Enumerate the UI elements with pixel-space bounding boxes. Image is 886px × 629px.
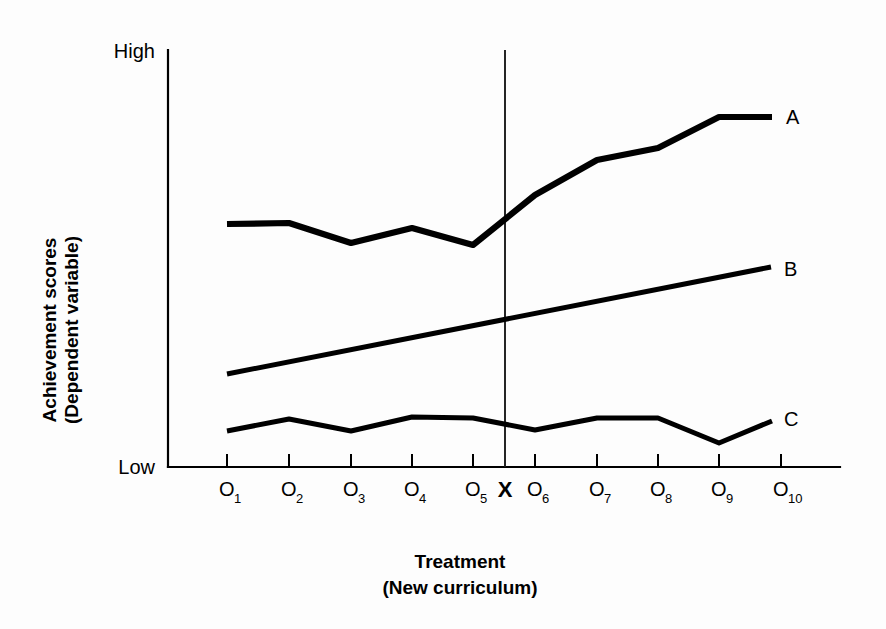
tick-label-o5-base: O [465,478,481,500]
tick-label-o5: O 5 [465,478,487,506]
tick-label-o2: O 2 [281,478,303,506]
tick-label-o6: O 6 [527,478,549,506]
tick-label-o8-sub: 8 [665,491,672,506]
x-axis-title-line1: Treatment [415,551,506,572]
series-label-a: A [786,106,800,128]
tick-label-o2-sub: 2 [296,491,303,506]
y-axis-low-label: Low [118,456,155,478]
tick-label-o8: O 8 [650,478,672,506]
series-line-a [227,117,772,245]
y-axis-high-label: High [114,40,155,62]
tick-label-o2-base: O [281,478,297,500]
figure-container: High Low Achievement scores (Dependent v… [0,0,886,629]
tick-label-o5-sub: 5 [480,491,487,506]
tick-label-o3-base: O [343,478,359,500]
series-line-b [227,267,771,374]
series-label-b: B [784,258,797,280]
tick-label-o10-sub: 10 [788,491,802,506]
y-axis-title: Achievement scores (Dependent variable) [39,236,82,424]
intervention-marker-label: X [498,477,513,502]
tick-label-o8-base: O [650,478,666,500]
tick-label-o9-sub: 9 [726,491,733,506]
tick-label-o7: O 7 [589,478,611,506]
tick-label-o10: O 10 [773,478,802,506]
tick-label-o3-sub: 3 [358,491,365,506]
line-chart-svg: High Low Achievement scores (Dependent v… [0,0,886,629]
series-line-c [227,417,772,443]
tick-label-o6-sub: 6 [542,491,549,506]
tick-label-o4: O 4 [404,478,426,506]
tick-label-o7-sub: 7 [604,491,611,506]
tick-label-o9-base: O [711,478,727,500]
x-axis-title-line2: (New curriculum) [382,577,537,598]
y-axis-title-line1: Achievement scores [39,238,60,423]
series-label-c: C [784,408,798,430]
tick-label-o1: O 1 [219,478,241,506]
tick-label-o10-base: O [773,478,789,500]
tick-label-o6-base: O [527,478,543,500]
y-axis-title-line2: (Dependent variable) [61,236,82,424]
tick-label-o4-base: O [404,478,420,500]
tick-label-o9: O 9 [711,478,733,506]
x-axis-ticks [227,454,781,467]
tick-label-o1-base: O [219,478,235,500]
tick-label-o7-base: O [589,478,605,500]
tick-label-o3: O 3 [343,478,365,506]
tick-label-o4-sub: 4 [419,491,426,506]
tick-label-o1-sub: 1 [234,491,241,506]
